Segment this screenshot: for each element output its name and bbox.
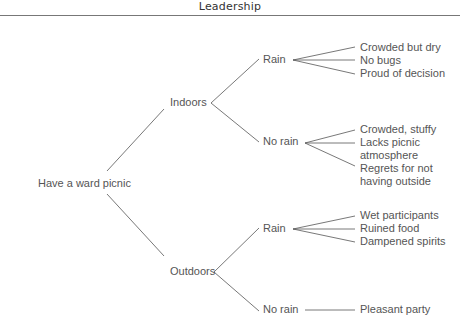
branch-indoors: Indoors — [170, 96, 207, 109]
outdoors-rain: Rain — [263, 222, 286, 235]
result-item: Crowded but dry — [360, 41, 441, 54]
indoors-no-rain: No rain — [263, 135, 298, 148]
result-item: atmosphere — [360, 149, 418, 162]
result-item: having outside — [360, 175, 431, 188]
result-item: Ruined food — [360, 222, 419, 235]
branch-outdoors: Outdoors — [170, 265, 215, 278]
result-item: Pleasant party — [360, 303, 430, 316]
result-item: Lacks picnic — [360, 136, 420, 149]
root-node: Have a ward picnic — [38, 177, 131, 190]
result-item: No bugs — [360, 54, 401, 67]
result-item: Proud of decision — [360, 67, 445, 80]
result-item: Dampened spirits — [360, 235, 446, 248]
result-item: Regrets for not — [360, 162, 433, 175]
indoors-rain: Rain — [263, 53, 286, 66]
result-item: Crowded, stuffy — [360, 123, 436, 136]
result-item: Wet participants — [360, 209, 439, 222]
outdoors-no-rain: No rain — [263, 303, 298, 316]
